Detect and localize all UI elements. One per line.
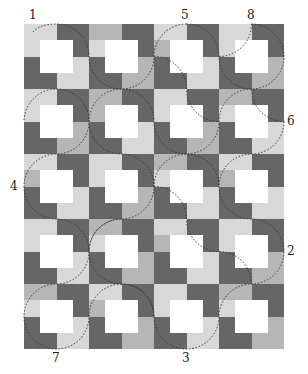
quilt-patch: [40, 300, 56, 316]
quilt-block: [154, 219, 219, 284]
quilt-patch: [57, 203, 73, 219]
quilt-patch: [235, 89, 251, 105]
quilt-patch: [268, 24, 284, 40]
quilt-patch: [73, 219, 89, 235]
quilt-patch: [138, 268, 154, 284]
quilt-patch: [73, 73, 89, 89]
quilt-patch: [105, 170, 121, 186]
quilt-patch: [122, 40, 138, 56]
quilt-patch: [219, 187, 235, 203]
quilt-patch: [235, 317, 251, 333]
quilt-patch: [89, 317, 105, 333]
quilt-patch: [89, 73, 105, 89]
quilt-patch: [252, 57, 268, 73]
quilt-patch: [235, 268, 251, 284]
quilt-patch: [203, 57, 219, 73]
quilt-patch: [187, 317, 203, 333]
quilt-patch: [170, 317, 186, 333]
quilt-patch: [73, 203, 89, 219]
quilt-patch: [57, 300, 73, 316]
quilt-patch: [154, 203, 170, 219]
quilt-patch: [154, 333, 170, 349]
quilt-patch: [122, 122, 138, 138]
path-label: 4: [10, 180, 18, 192]
quilt-patch: [40, 187, 56, 203]
quilt-patch: [122, 24, 138, 40]
path-label: 8: [247, 9, 255, 21]
quilt-patch: [235, 284, 251, 300]
quilt-patch: [203, 317, 219, 333]
quilt-patch: [105, 40, 121, 56]
quilt-patch: [235, 187, 251, 203]
quilt-patch: [89, 284, 105, 300]
quilt-patch: [187, 252, 203, 268]
quilt-patch: [57, 268, 73, 284]
quilt-patch: [24, 89, 40, 105]
quilt-patch: [170, 187, 186, 203]
quilt-patch: [219, 122, 235, 138]
quilt-patch: [203, 73, 219, 89]
quilt-patch: [219, 170, 235, 186]
quilt-patch: [122, 317, 138, 333]
quilt-patch: [73, 105, 89, 121]
quilt-patch: [40, 122, 56, 138]
quilt-patch: [170, 73, 186, 89]
quilt-patch: [268, 73, 284, 89]
quilt-patch: [122, 252, 138, 268]
quilt-patch: [138, 170, 154, 186]
quilt-patch: [138, 333, 154, 349]
quilt-patch: [235, 170, 251, 186]
quilt-patch: [89, 333, 105, 349]
quilt-patch: [187, 122, 203, 138]
quilt-patch: [154, 24, 170, 40]
quilt-patch: [57, 40, 73, 56]
quilt-block: [219, 89, 284, 154]
quilt-patch: [24, 187, 40, 203]
quilt-patch: [187, 203, 203, 219]
quilt-patch: [89, 187, 105, 203]
quilt-patch: [170, 333, 186, 349]
quilt-patch: [268, 187, 284, 203]
quilt-patch: [73, 317, 89, 333]
quilt-patch: [57, 57, 73, 73]
quilt-patch: [138, 235, 154, 251]
quilt-block: [219, 219, 284, 284]
quilt-patch: [122, 203, 138, 219]
quilt-patch: [154, 235, 170, 251]
quilt-patch: [203, 252, 219, 268]
quilt-patch: [170, 122, 186, 138]
quilt-patch: [154, 268, 170, 284]
quilt-patch: [40, 252, 56, 268]
quilt-patch: [138, 203, 154, 219]
quilt-patch: [187, 284, 203, 300]
quilt-patch: [235, 122, 251, 138]
quilt-patch: [105, 284, 121, 300]
quilt-patch: [105, 187, 121, 203]
quilt-patch: [203, 122, 219, 138]
quilt-patch: [170, 235, 186, 251]
quilt-patch: [89, 105, 105, 121]
quilt-patch: [252, 268, 268, 284]
quilt-patch: [105, 252, 121, 268]
quilt-patch: [73, 122, 89, 138]
quilt-patch: [73, 154, 89, 170]
quilt-patch: [268, 252, 284, 268]
quilt-patch: [268, 317, 284, 333]
quilt-patch: [138, 57, 154, 73]
quilt-patch: [105, 122, 121, 138]
path-label: 5: [181, 9, 189, 21]
quilt-patch: [187, 300, 203, 316]
quilt-patch: [219, 203, 235, 219]
quilt-patch: [235, 154, 251, 170]
quilt-patch: [268, 40, 284, 56]
quilt-patch: [203, 268, 219, 284]
path-label: 6: [287, 115, 295, 127]
quilt-patch: [89, 57, 105, 73]
quilt-patch: [268, 57, 284, 73]
quilt-patch: [138, 154, 154, 170]
quilt-block: [89, 219, 154, 284]
quilt-patch: [219, 333, 235, 349]
quilt-patch: [154, 154, 170, 170]
quilt-patch: [57, 333, 73, 349]
quilt-patch: [105, 57, 121, 73]
